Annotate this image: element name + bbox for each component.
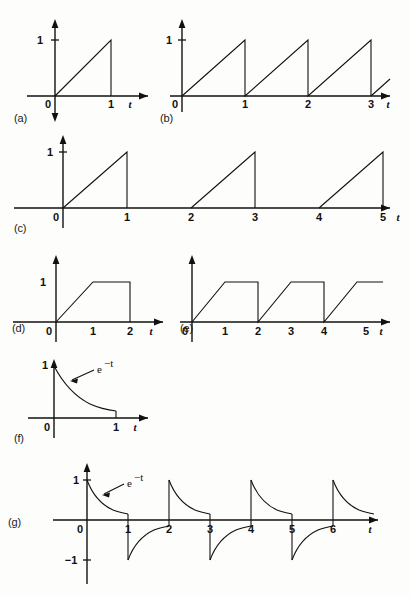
x-tick-label-0: 0 bbox=[172, 98, 178, 110]
x-tick-label-4: 4 bbox=[316, 211, 323, 223]
annotation-pointer-icon bbox=[102, 484, 124, 498]
x-axis bbox=[13, 319, 163, 326]
x-axis-label: t bbox=[396, 211, 400, 223]
panel-tag-d: (d) bbox=[12, 322, 25, 334]
waveform-sawtooth bbox=[182, 40, 390, 96]
panel-f-plot: e −t 1 0 1 t bbox=[20, 352, 190, 447]
curve-label-exponent: −t bbox=[104, 357, 113, 369]
curve-label-exponent: −t bbox=[134, 471, 143, 483]
y-axis bbox=[179, 19, 186, 112]
y-tick-label-1: 1 bbox=[42, 359, 48, 371]
waveform-ramp bbox=[55, 40, 111, 96]
x-axis bbox=[180, 319, 390, 326]
x-tick-label-0: 0 bbox=[53, 211, 59, 223]
x-tick-label-3: 3 bbox=[252, 211, 258, 223]
panel-d: 1 0 1 2 t bbox=[8, 250, 183, 350]
y-axis bbox=[60, 135, 67, 228]
x-axis-label: t bbox=[368, 523, 372, 535]
x-tick-label-6: 6 bbox=[330, 523, 336, 535]
x-tick-label-2: 2 bbox=[305, 98, 311, 110]
panel-g-plot: e −t 1 −1 0 1 2 3 4 5 6 t bbox=[8, 458, 406, 594]
x-tick-label-0: 0 bbox=[46, 325, 52, 337]
x-axis-label: t bbox=[133, 421, 137, 433]
x-axis bbox=[170, 93, 390, 100]
panel-tag-b: (b) bbox=[160, 112, 173, 124]
y-tick-label-1: 1 bbox=[40, 276, 46, 288]
panel-a: 1 0 1 t bbox=[22, 8, 172, 123]
x-tick-label-5: 5 bbox=[363, 325, 369, 337]
waveform-gapped-sawtooth bbox=[63, 152, 383, 208]
curve-label-base: e bbox=[97, 363, 102, 375]
panel-tag-c: (c) bbox=[14, 222, 26, 234]
x-tick-label-2: 2 bbox=[255, 325, 261, 337]
y-tick-label-1: 1 bbox=[47, 146, 53, 158]
x-axis-label: t bbox=[149, 325, 153, 337]
panel-b-plot: 1 0 1 2 3 t bbox=[168, 8, 408, 123]
x-tick-label-1: 1 bbox=[222, 325, 228, 337]
x-axis bbox=[14, 205, 390, 212]
y-axis bbox=[53, 255, 60, 342]
x-axis-label: t bbox=[379, 325, 383, 337]
panel-d-plot: 1 0 1 2 t bbox=[8, 250, 183, 350]
x-tick-label-3: 3 bbox=[368, 98, 374, 110]
panel-e-plot: 0 1 2 3 4 5 t bbox=[178, 250, 410, 350]
panel-c-plot: 1 0 1 2 3 4 5 t bbox=[8, 128, 406, 238]
x-tick-label-5: 5 bbox=[289, 523, 295, 535]
panel-f: e −t 1 0 1 t bbox=[20, 352, 190, 447]
x-axis-label: t bbox=[386, 98, 390, 110]
curve-label-base: e bbox=[127, 477, 132, 489]
waveform-trapezoid bbox=[56, 282, 130, 322]
y-tick-label-1: 1 bbox=[166, 34, 172, 46]
x-tick-label-1: 1 bbox=[108, 98, 114, 110]
x-tick-label-1: 1 bbox=[125, 523, 131, 535]
panel-g: e −t 1 −1 0 1 2 3 4 5 6 t bbox=[8, 458, 406, 594]
x-tick-label-0: 0 bbox=[77, 523, 83, 535]
x-tick-label-4: 4 bbox=[321, 325, 328, 337]
figure-page: 1 0 1 t (a) 1 0 1 2 3 bbox=[0, 0, 410, 596]
x-tick-label-3: 3 bbox=[207, 523, 213, 535]
panel-b: 1 0 1 2 3 t bbox=[168, 8, 408, 123]
panel-tag-g: (g) bbox=[8, 516, 21, 528]
panel-tag-a: (a) bbox=[14, 112, 27, 124]
panel-e: 0 1 2 3 4 5 t bbox=[178, 250, 410, 350]
x-tick-label-4: 4 bbox=[248, 523, 255, 535]
y-tick-label-pos1: 1 bbox=[73, 474, 79, 486]
x-tick-label-5: 5 bbox=[380, 211, 386, 223]
annotation-pointer-icon bbox=[70, 370, 94, 384]
x-tick-label-0: 0 bbox=[44, 421, 50, 433]
x-tick-label-1: 1 bbox=[242, 98, 248, 110]
x-tick-label-1: 1 bbox=[113, 421, 119, 433]
x-tick-label-0: 0 bbox=[45, 98, 51, 110]
panel-c: 1 0 1 2 3 4 5 t bbox=[8, 128, 406, 238]
x-axis-label: t bbox=[128, 98, 132, 110]
x-tick-label-2: 2 bbox=[166, 523, 172, 535]
x-tick-label-2: 2 bbox=[188, 211, 194, 223]
x-tick-label-2: 2 bbox=[127, 325, 133, 337]
y-tick-label-1: 1 bbox=[37, 34, 43, 46]
y-tick-label-neg1: −1 bbox=[65, 554, 78, 566]
panel-a-plot: 1 0 1 t bbox=[22, 8, 172, 123]
x-tick-label-1: 1 bbox=[124, 211, 130, 223]
x-tick-label-1: 1 bbox=[90, 325, 96, 337]
waveform-periodic-trapezoid bbox=[192, 282, 383, 322]
panel-tag-f: (f) bbox=[14, 432, 24, 444]
panel-tag-e: (e) bbox=[180, 322, 193, 334]
x-tick-label-3: 3 bbox=[288, 325, 294, 337]
y-axis bbox=[52, 19, 59, 122]
